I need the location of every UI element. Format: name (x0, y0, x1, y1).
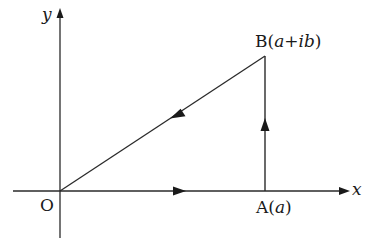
segment-bo (60, 56, 265, 191)
origin-label: O (40, 197, 54, 214)
point-b-label: B(a+ib) (255, 33, 321, 50)
arrow-oa-icon (173, 187, 186, 196)
point-a-open: ( (268, 197, 275, 217)
point-b-value: a+ib (274, 31, 315, 51)
point-a-value: a (275, 197, 285, 217)
point-a-close: ) (285, 197, 292, 217)
point-b-name: B (255, 31, 268, 51)
arrow-ab-icon (261, 118, 270, 131)
y-axis-arrowhead-icon (57, 8, 64, 18)
point-b-close: ) (315, 31, 322, 51)
y-axis-label: y (42, 6, 52, 23)
x-axis-label: x (352, 181, 362, 198)
point-a-name: A (256, 197, 268, 217)
point-a-label: A(a) (256, 199, 292, 216)
x-axis-arrowhead-icon (339, 187, 350, 195)
